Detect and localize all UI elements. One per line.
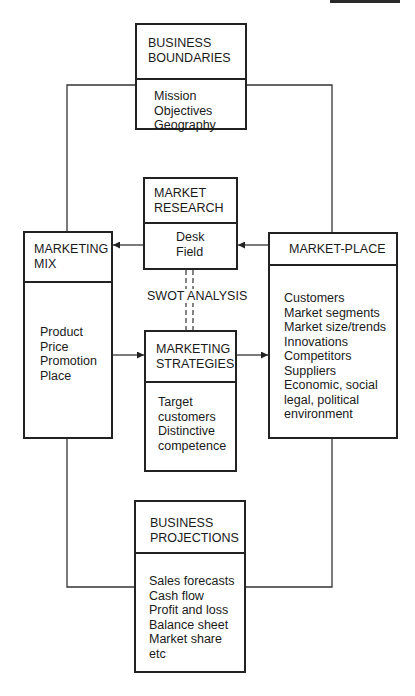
item: Place xyxy=(40,369,111,384)
item: Market segments xyxy=(284,306,396,321)
connector-boundaries-mix xyxy=(67,85,136,231)
box-title: BUSINESS BOUNDARIES xyxy=(137,25,245,80)
item: Economic, social xyxy=(284,378,396,393)
box-body: Mission Objectives Geography xyxy=(137,80,245,133)
item: Mission xyxy=(154,89,245,104)
box-body: Sales forecasts Cash flow Profit and los… xyxy=(136,554,244,661)
title-line: RESEARCH xyxy=(154,201,236,216)
item: Market size/trends xyxy=(284,320,396,335)
item: Price xyxy=(40,340,111,355)
item: competence xyxy=(158,439,235,454)
item: Geography xyxy=(154,118,245,133)
connector-boundaries-marketplace xyxy=(245,85,332,232)
item: Objectives xyxy=(154,104,245,119)
box-title: MARKETING STRATEGIES xyxy=(146,332,235,383)
item: Sales forecasts xyxy=(149,574,244,589)
title-line: PROJECTIONS xyxy=(150,531,244,546)
box-body: Customers Market segments Market size/tr… xyxy=(270,266,396,422)
item: customers xyxy=(158,410,235,425)
title-line: BUSINESS xyxy=(150,516,244,531)
item: Market share xyxy=(149,632,244,647)
title-line: STRATEGIES xyxy=(156,357,235,372)
connector-mix-projections xyxy=(67,438,134,587)
box-body: Target customers Distinctive competence xyxy=(146,383,235,453)
connector-marketplace-projections xyxy=(244,438,332,587)
item: Product xyxy=(40,325,111,340)
item: Cash flow xyxy=(149,589,244,604)
item: legal, political xyxy=(284,393,396,408)
item: Customers xyxy=(284,291,396,306)
item: Target xyxy=(158,395,235,410)
item: Profit and loss xyxy=(149,603,244,618)
box-marketing-strategies: MARKETING STRATEGIES Target customers Di… xyxy=(144,330,237,472)
item: Innovations xyxy=(284,335,396,350)
item: Competitors xyxy=(284,349,396,364)
title-line: MIX xyxy=(34,257,111,272)
title-line: MARKET xyxy=(154,186,236,201)
title-line: MARKET-PLACE xyxy=(289,242,396,257)
item: Promotion xyxy=(40,354,111,369)
title-line: MARKETING xyxy=(156,342,235,357)
title-line: BOUNDARIES xyxy=(148,51,245,66)
box-body: Product Price Promotion Place xyxy=(25,283,111,383)
title-line: MARKETING xyxy=(34,242,111,257)
item: Desk xyxy=(176,230,236,245)
box-title: BUSINESS PROJECTIONS xyxy=(136,502,244,554)
item: environment xyxy=(284,407,396,422)
box-body: Desk Field xyxy=(145,224,236,259)
item: Field xyxy=(176,245,236,260)
item: etc xyxy=(149,647,244,662)
box-title: MARKETING MIX xyxy=(25,233,111,283)
item: Distinctive xyxy=(158,424,235,439)
box-business-projections: BUSINESS PROJECTIONS Sales forecasts Cas… xyxy=(134,500,246,673)
item: Balance sheet xyxy=(149,618,244,633)
title-line: BUSINESS xyxy=(148,36,245,51)
box-title: MARKET RESEARCH xyxy=(145,179,236,224)
swot-analysis-label: SWOT ANALYSIS xyxy=(146,289,248,303)
box-marketing-mix: MARKETING MIX Product Price Promotion Pl… xyxy=(23,231,113,439)
box-market-research: MARKET RESEARCH Desk Field xyxy=(143,177,238,270)
box-market-place: MARKET-PLACE Customers Market segments M… xyxy=(268,232,398,439)
item: Suppliers xyxy=(284,364,396,379)
box-title: MARKET-PLACE xyxy=(270,234,396,266)
box-business-boundaries: BUSINESS BOUNDARIES Mission Objectives G… xyxy=(135,23,247,130)
